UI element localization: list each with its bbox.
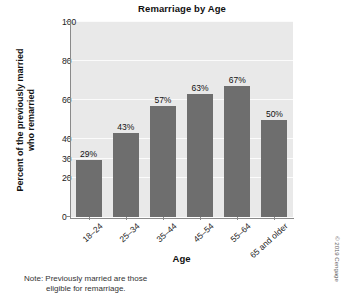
- bar: [224, 86, 250, 217]
- bar-value-label: 67%: [229, 75, 246, 85]
- bar-value-label: 63%: [192, 83, 209, 93]
- y-axis-tick-label: 30: [62, 154, 64, 164]
- bar-value-label: 57%: [154, 95, 171, 105]
- bar-value-label: 43%: [117, 122, 134, 132]
- x-axis-tick-label: 18–24: [80, 221, 104, 244]
- bar-value-label: 50%: [266, 109, 283, 119]
- y-axis-tick-label: 100: [62, 17, 64, 27]
- y-axis-tick-label: 0: [62, 212, 64, 222]
- y-axis-tick-label: 20: [62, 173, 64, 183]
- chart-note: Note: Previously married are those eligi…: [24, 264, 147, 293]
- y-axis-tick-label: 60: [62, 95, 64, 105]
- chart-note-line-2: eligible for remarriage.: [24, 284, 147, 293]
- copyright-text: © 2019 Cengage: [334, 236, 340, 281]
- y-axis-title: Percent of the previously married who re…: [14, 22, 36, 218]
- gridline: [70, 21, 293, 22]
- gridline: [70, 60, 293, 61]
- x-axis-tick-label: 55–64: [229, 221, 253, 244]
- bar: [150, 106, 176, 217]
- bar-value-label: 29%: [80, 149, 97, 159]
- x-axis-line: [70, 218, 294, 219]
- x-axis-tick-label: 35–44: [154, 221, 178, 244]
- x-axis-tick-label: 45–54: [192, 221, 216, 244]
- copyright-credit: © 2019 Cengage: [330, 228, 344, 290]
- plot-area: 0203040608010029%43%57%63%67%50%: [70, 22, 293, 217]
- chart-note-line-1: Note: Previously married are those: [24, 274, 147, 283]
- bar: [113, 133, 139, 217]
- x-axis-tick-label: 25–34: [117, 221, 141, 244]
- bar: [261, 120, 287, 218]
- figure: Remarriage by Age Percent of the previou…: [0, 0, 348, 293]
- y-axis-tick-label: 40: [62, 134, 64, 144]
- gridline: [70, 99, 293, 100]
- y-axis-tick-label: 80: [62, 56, 64, 66]
- y-axis-line: [70, 22, 71, 218]
- y-axis-title-line-1: Percent of the previously married: [15, 48, 25, 191]
- bar: [76, 160, 102, 217]
- gridline: [70, 177, 293, 178]
- y-axis-title-line-2: who remarried: [25, 48, 36, 191]
- gridline: [70, 138, 293, 139]
- bar: [187, 94, 213, 217]
- gridline: [70, 158, 293, 159]
- chart-title: Remarriage by Age: [70, 3, 294, 14]
